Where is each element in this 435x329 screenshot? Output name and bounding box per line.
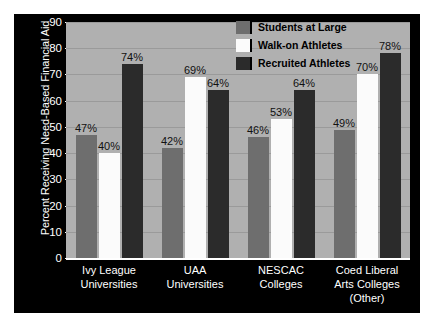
x-axis-category-label: Coed LiberalArts Colleges(Other) [324, 263, 410, 305]
legend-swatch-icon [236, 39, 252, 52]
legend-swatch-icon [236, 21, 252, 34]
x-axis-category-line: UAA [152, 263, 238, 277]
x-axis-category-line: Universities [66, 277, 152, 291]
x-axis-category-label: Ivy LeagueUniversities [66, 263, 152, 291]
x-axis-category-line: Ivy League [66, 263, 152, 277]
legend-swatch-icon [236, 57, 252, 70]
bar-value-label: 46% [247, 124, 269, 136]
bar[interactable]: 53% [271, 119, 292, 258]
bar-value-label: 53% [270, 106, 292, 118]
legend-item[interactable]: Students at Large [236, 19, 386, 35]
bar-value-label: 64% [207, 77, 229, 89]
x-axis-category-line: Colleges [238, 277, 324, 291]
bar[interactable]: 74% [122, 64, 143, 258]
y-tick-label: 60 [36, 95, 62, 106]
y-tick-label: 20 [36, 200, 62, 211]
y-tick-label: 40 [36, 148, 62, 159]
chart-legend: Students at LargeWalk-on AthletesRecruit… [236, 19, 386, 73]
y-tick-label: 70 [36, 69, 62, 80]
bar[interactable]: 49% [334, 130, 355, 258]
bar[interactable]: 40% [99, 153, 120, 258]
bar[interactable]: 42% [162, 148, 183, 258]
bar[interactable]: 70% [357, 74, 378, 258]
legend-item[interactable]: Recruited Athletes [236, 55, 386, 71]
x-axis-category-line: Coed Liberal [324, 263, 410, 277]
y-tick-label: 80 [36, 43, 62, 54]
bar-value-label: 69% [184, 64, 206, 76]
legend-item[interactable]: Walk-on Athletes [236, 37, 386, 53]
bar[interactable]: 64% [208, 90, 229, 258]
y-tick-label: 30 [36, 174, 62, 185]
y-tick-label: 90 [36, 17, 62, 28]
bar[interactable]: 69% [185, 77, 206, 258]
bar-value-label: 40% [98, 140, 120, 152]
bar-value-label: 64% [293, 77, 315, 89]
bar-value-label: 47% [75, 122, 97, 134]
x-axis-category-line: Arts Colleges [324, 277, 410, 291]
legend-label: Students at Large [258, 21, 347, 33]
x-axis-category-line: (Other) [324, 291, 410, 305]
x-axis-category-line: NESCAC [238, 263, 324, 277]
y-tick-label: 0 [36, 253, 62, 264]
legend-label: Walk-on Athletes [258, 39, 342, 51]
legend-label: Recruited Athletes [258, 57, 350, 69]
y-axis-tick-labels: 9080706050403020100 [36, 22, 62, 258]
bar-group: 47%40%74% [66, 22, 152, 258]
x-axis-category-label: NESCACColleges [238, 263, 324, 291]
x-axis-line [66, 258, 410, 260]
y-tick-label: 50 [36, 121, 62, 132]
bar[interactable]: 78% [380, 53, 401, 258]
bar-value-label: 49% [333, 117, 355, 129]
x-axis-tick-labels: Ivy LeagueUniversitiesUAAUniversitiesNES… [66, 263, 410, 311]
bar-group: 42%69%64% [152, 22, 238, 258]
x-axis-category-label: UAAUniversities [152, 263, 238, 291]
bar[interactable]: 46% [248, 137, 269, 258]
bar-value-label: 42% [161, 135, 183, 147]
bar[interactable]: 64% [294, 90, 315, 258]
chart-figure: Percent Receiving Need-Based Financial A… [0, 0, 435, 329]
chart-panel: Percent Receiving Need-Based Financial A… [14, 14, 420, 313]
bar-value-label: 74% [121, 51, 143, 63]
bar[interactable]: 47% [76, 135, 97, 258]
y-tick-label: 10 [36, 226, 62, 237]
x-axis-category-line: Universities [152, 277, 238, 291]
